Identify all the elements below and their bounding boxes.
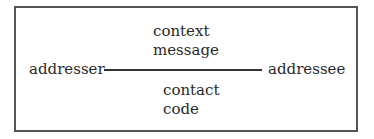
label-code: code bbox=[163, 100, 199, 118]
label-contact: contact bbox=[163, 81, 220, 99]
label-addressee: addressee bbox=[268, 60, 345, 78]
label-message: message bbox=[153, 41, 219, 59]
label-context: context bbox=[153, 22, 209, 40]
connector-line bbox=[104, 69, 262, 71]
label-addresser: addresser bbox=[29, 60, 105, 78]
